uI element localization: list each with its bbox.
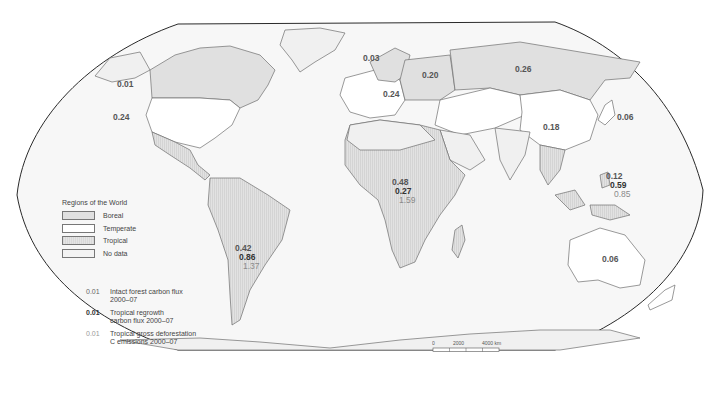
- scale-bar: 0 2000 4000 km: [432, 340, 512, 357]
- scale-tick-0: 0: [432, 340, 435, 346]
- flux-key-label: 2000–07: [110, 296, 183, 304]
- label-canada-intact: 0.01: [117, 79, 134, 89]
- label-china-intact: 0.18: [543, 122, 560, 132]
- label-australia-intact: 0.06: [602, 254, 619, 264]
- legend: Regions of the World Boreal Temperate Tr…: [62, 199, 136, 260]
- flux-key-value: 0.01: [86, 309, 104, 325]
- label-usa-intact: 0.24: [113, 112, 130, 122]
- flux-key-label: Tropical gross deforestation: [110, 330, 196, 338]
- label-europe-intact: 0.24: [383, 89, 400, 99]
- legend-swatch-nodata: [62, 249, 95, 258]
- legend-swatch-temperate: [62, 224, 95, 233]
- legend-item-temperate: Temperate: [62, 223, 136, 235]
- scale-bar-graphic: 0 2000 4000 km: [432, 340, 512, 356]
- legend-swatch-boreal: [62, 211, 95, 220]
- flux-key-label: C emissions 2000–07: [110, 338, 196, 346]
- label-european-russia-intact: 0.20: [422, 70, 439, 80]
- flux-key-value: 0.01: [86, 288, 104, 304]
- legend-item-boreal: Boreal: [62, 210, 136, 222]
- legend-label: Temperate: [103, 225, 136, 232]
- flux-key: 0.01 Intact forest carbon flux2000–07 0.…: [86, 288, 196, 351]
- flux-key-label: Tropical regrowth: [110, 309, 173, 317]
- legend-label: Tropical: [103, 237, 128, 244]
- label-scandinavia-intact: 0.03: [363, 53, 380, 63]
- flux-key-label: Intact forest carbon flux: [110, 288, 183, 296]
- flux-key-defor: 0.01 Tropical gross deforestationC emiss…: [86, 330, 196, 346]
- legend-label: No data: [103, 250, 128, 257]
- legend-item-nodata: No data: [62, 248, 136, 260]
- label-samerica-defor: 1.37: [243, 261, 260, 271]
- legend-title: Regions of the World: [62, 199, 136, 206]
- flux-key-regrowth: 0.01 Tropical regrowthcarbon flux 2000–0…: [86, 309, 196, 325]
- scale-tick-4000: 4000 km: [482, 340, 501, 346]
- label-asia-tropical-defor: 0.85: [614, 189, 631, 199]
- label-asian-russia-intact: 0.26: [515, 64, 532, 74]
- label-japan-intact: 0.06: [617, 112, 634, 122]
- flux-key-intact: 0.01 Intact forest carbon flux2000–07: [86, 288, 196, 304]
- flux-key-label: carbon flux 2000–07: [110, 317, 173, 325]
- label-africa-defor: 1.59: [399, 195, 416, 205]
- flux-key-value: 0.01: [86, 330, 104, 346]
- legend-item-tropical: Tropical: [62, 235, 136, 247]
- legend-label: Boreal: [103, 212, 123, 219]
- legend-swatch-tropical: [62, 236, 95, 245]
- scale-tick-2000: 2000: [453, 340, 464, 346]
